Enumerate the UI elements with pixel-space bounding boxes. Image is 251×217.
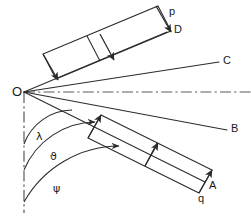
ray-OB (24, 92, 227, 130)
geometry-figure: O p D C B A q λ ϑ ψ (0, 0, 251, 217)
q-band-outline (88, 115, 212, 193)
theta-arc (24, 122, 95, 170)
angle-theta-label: ϑ (50, 151, 57, 162)
p-band (43, 6, 171, 79)
ray-B-label: B (231, 123, 238, 134)
psi-arc (24, 146, 119, 202)
angle-psi-label: ψ (53, 183, 60, 194)
ray-D-label: D (174, 24, 182, 35)
q-band (88, 115, 212, 193)
q-band-label: q (198, 193, 204, 204)
angle-lambda-label: λ (36, 131, 43, 142)
origin-label: O (12, 85, 22, 98)
p-band-label: p (169, 6, 175, 17)
p-band-outline (43, 6, 171, 79)
ray-C-label: C (223, 55, 231, 66)
ray-A-label: A (209, 180, 216, 191)
